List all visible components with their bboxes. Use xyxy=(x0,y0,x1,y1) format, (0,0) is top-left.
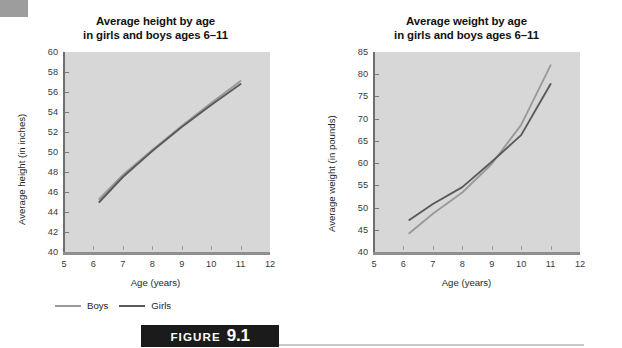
x-tick-label-height-7: 7 xyxy=(111,259,135,269)
x-tick-mark-height-10 xyxy=(211,246,212,250)
y-tick-label-height-52: 52 xyxy=(34,127,58,137)
y-tick-mark-weight-75 xyxy=(375,96,379,97)
y-tick-mark-weight-45 xyxy=(375,230,379,231)
y-tick-label-height-60: 60 xyxy=(34,47,58,57)
x-tick-mark-height-11 xyxy=(241,246,242,250)
y-tick-label-height-54: 54 xyxy=(34,107,58,117)
x-tick-mark-height-9 xyxy=(182,246,183,250)
x-tick-label-height-8: 8 xyxy=(140,259,164,269)
figure-number: 9.1 xyxy=(227,326,250,346)
series-svg-weight xyxy=(0,0,622,300)
y-tick-label-weight-40: 40 xyxy=(344,247,368,257)
y-tick-label-weight-65: 65 xyxy=(344,136,368,146)
y-tick-label-weight-70: 70 xyxy=(344,114,368,124)
x-tick-mark-height-8 xyxy=(152,246,153,250)
y-tick-label-height-58: 58 xyxy=(34,67,58,77)
x-tick-label-weight-6: 6 xyxy=(391,259,415,269)
y-tick-label-weight-45: 45 xyxy=(344,225,368,235)
y-tick-label-height-44: 44 xyxy=(34,207,58,217)
series-line-girls-weight xyxy=(409,84,550,220)
legend-swatch-girls xyxy=(119,305,145,307)
x-tick-mark-weight-6 xyxy=(403,246,404,250)
y-tick-mark-height-58 xyxy=(65,72,69,73)
y-tick-mark-weight-50 xyxy=(375,208,379,209)
y-tick-label-height-56: 56 xyxy=(34,87,58,97)
legend-swatch-boys xyxy=(55,305,81,307)
y-tick-label-height-40: 40 xyxy=(34,247,58,257)
x-tick-mark-weight-9 xyxy=(492,246,493,250)
y-tick-mark-height-48 xyxy=(65,172,69,173)
y-tick-label-height-42: 42 xyxy=(34,227,58,237)
x-tick-label-weight-12: 12 xyxy=(568,259,592,269)
chart-panel-weight: Average weight by age in girls and boys … xyxy=(0,0,622,300)
y-tick-label-weight-75: 75 xyxy=(344,91,368,101)
y-tick-mark-weight-60 xyxy=(375,163,379,164)
y-tick-mark-height-50 xyxy=(65,152,69,153)
y-tick-label-weight-85: 85 xyxy=(344,47,368,57)
x-tick-label-height-10: 10 xyxy=(199,259,223,269)
y-tick-mark-height-52 xyxy=(65,132,69,133)
legend-item-boys: Boys xyxy=(55,300,108,311)
legend-label-boys: Boys xyxy=(87,300,108,311)
x-tick-label-weight-11: 11 xyxy=(539,259,563,269)
x-tick-label-weight-5: 5 xyxy=(362,259,386,269)
banner-rule xyxy=(279,344,584,346)
figure-word: FIGURE xyxy=(170,330,220,343)
y-tick-mark-weight-80 xyxy=(375,74,379,75)
y-tick-label-weight-55: 55 xyxy=(344,180,368,190)
y-tick-label-weight-60: 60 xyxy=(344,158,368,168)
y-tick-mark-weight-55 xyxy=(375,185,379,186)
x-tick-label-weight-10: 10 xyxy=(509,259,533,269)
x-tick-label-height-9: 9 xyxy=(170,259,194,269)
x-tick-mark-weight-10 xyxy=(521,246,522,250)
x-tick-mark-weight-11 xyxy=(551,246,552,250)
y-tick-mark-height-44 xyxy=(65,212,69,213)
y-tick-label-weight-80: 80 xyxy=(344,69,368,79)
x-tick-label-height-12: 12 xyxy=(258,259,282,269)
y-tick-mark-height-42 xyxy=(65,232,69,233)
x-tick-label-weight-9: 9 xyxy=(480,259,504,269)
x-tick-mark-height-6 xyxy=(93,246,94,250)
y-tick-label-height-50: 50 xyxy=(34,147,58,157)
series-line-boys-weight xyxy=(409,65,550,233)
x-tick-mark-height-7 xyxy=(123,246,124,250)
x-tick-mark-weight-8 xyxy=(462,246,463,250)
figure-banner: FIGURE 9.1 xyxy=(141,325,279,347)
legend-label-girls: Girls xyxy=(151,300,171,311)
x-tick-label-height-11: 11 xyxy=(229,259,253,269)
x-tick-label-weight-8: 8 xyxy=(450,259,474,269)
y-tick-label-weight-50: 50 xyxy=(344,203,368,213)
x-tick-label-height-6: 6 xyxy=(81,259,105,269)
x-tick-label-weight-7: 7 xyxy=(421,259,445,269)
legend-item-girls: Girls xyxy=(119,300,171,311)
y-tick-mark-height-54 xyxy=(65,112,69,113)
y-tick-mark-height-56 xyxy=(65,92,69,93)
y-tick-mark-weight-70 xyxy=(375,119,379,120)
x-tick-mark-weight-7 xyxy=(433,246,434,250)
x-tick-label-height-5: 5 xyxy=(52,259,76,269)
y-tick-mark-weight-65 xyxy=(375,141,379,142)
y-tick-label-height-48: 48 xyxy=(34,167,58,177)
y-tick-label-height-46: 46 xyxy=(34,187,58,197)
y-tick-mark-height-46 xyxy=(65,192,69,193)
chart-legend: Boys Girls xyxy=(55,300,171,311)
